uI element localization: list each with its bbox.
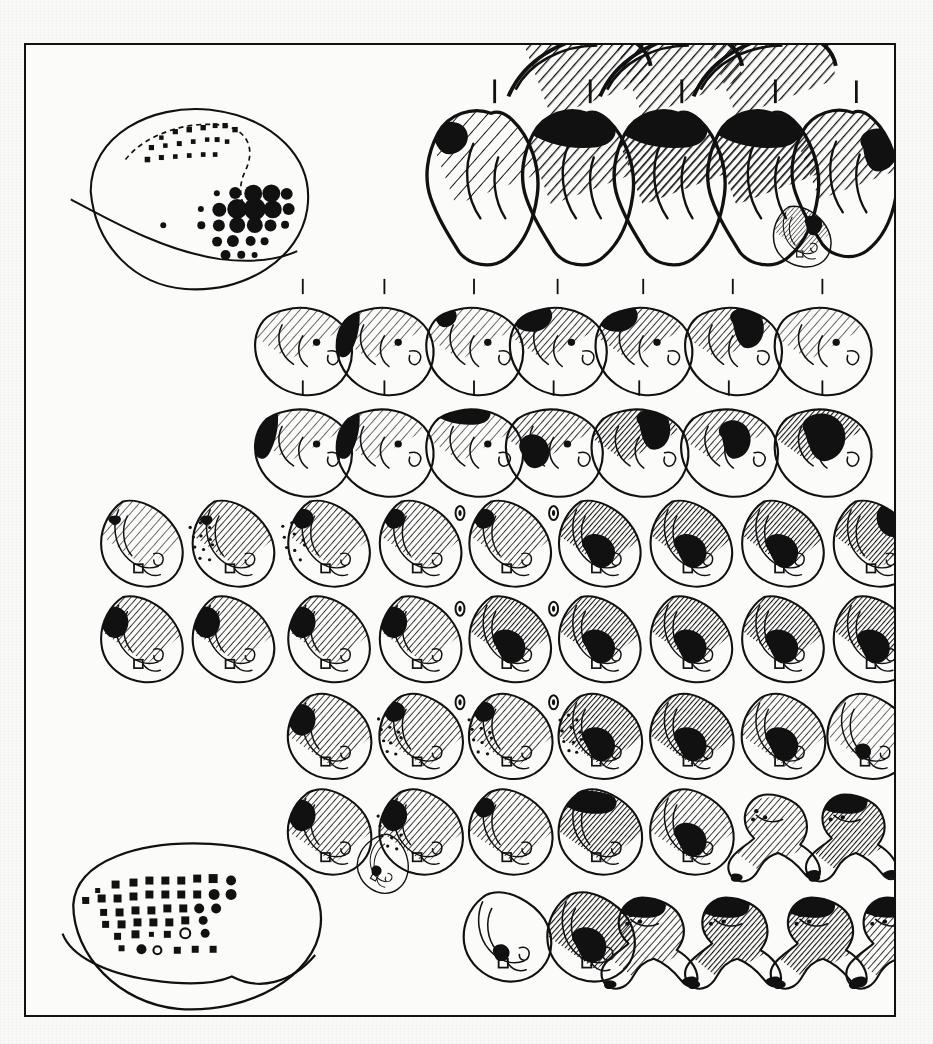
lesion-solid-core bbox=[772, 894, 835, 918]
inset-marker-square bbox=[177, 877, 185, 885]
stipple-dot bbox=[382, 739, 385, 742]
brain-section bbox=[817, 686, 894, 779]
stipple-dot bbox=[477, 750, 480, 753]
lateral-brain-schematic-upper bbox=[71, 109, 308, 289]
lesion-hatch-region bbox=[770, 294, 862, 360]
stipple-dot bbox=[486, 752, 489, 755]
inset-marker-square bbox=[191, 139, 196, 144]
inset-marker-circle bbox=[226, 889, 237, 900]
brain-section bbox=[421, 279, 523, 395]
inset-marker-circle bbox=[211, 903, 221, 913]
row-mid-hemisphere-b bbox=[92, 589, 894, 683]
detached-ovoid bbox=[549, 602, 558, 616]
inset-marker-dot bbox=[246, 236, 256, 246]
brain-section bbox=[590, 279, 692, 395]
brain-section bbox=[770, 279, 872, 395]
brain-section bbox=[733, 589, 832, 683]
detached-ovoid bbox=[549, 695, 558, 709]
brain-section bbox=[279, 589, 378, 683]
inset-marker-square bbox=[225, 139, 230, 144]
inset-marker-square bbox=[102, 921, 109, 928]
inset-marker-square bbox=[193, 891, 201, 899]
stipple-dot bbox=[189, 526, 192, 529]
inset-marker-square bbox=[213, 152, 218, 157]
brain-section bbox=[767, 201, 837, 267]
inset-marker-square bbox=[149, 145, 154, 150]
inset-marker-square bbox=[130, 893, 138, 901]
brain-section bbox=[461, 493, 560, 587]
row-anterior-cortex-a bbox=[250, 279, 872, 395]
inset-marker-circle bbox=[136, 944, 146, 954]
lateral-brain-schematic-lower bbox=[63, 843, 321, 1009]
inset-marker-square bbox=[149, 932, 154, 937]
inset-marker-square bbox=[174, 947, 181, 954]
inset-marker-square bbox=[173, 129, 178, 134]
inset-marker-dot bbox=[265, 219, 277, 231]
inset-marker-square bbox=[145, 877, 153, 885]
row-mid-hemisphere-a bbox=[92, 493, 894, 587]
brain-section bbox=[461, 589, 560, 683]
stipple-dot bbox=[299, 558, 302, 561]
inset-marker-square bbox=[222, 123, 227, 128]
inset-layer bbox=[63, 109, 321, 1009]
inset-marker-dot bbox=[283, 203, 295, 215]
inset-marker-dot bbox=[264, 200, 282, 218]
brain-section bbox=[550, 493, 649, 587]
brain-section bbox=[770, 380, 872, 496]
stipple-dot bbox=[567, 749, 570, 752]
inset-marker-square bbox=[181, 916, 189, 924]
inset-marker-open-circle bbox=[180, 928, 190, 938]
inset-marker-square bbox=[159, 155, 164, 160]
inset-marker-dot bbox=[229, 187, 241, 199]
brain-section bbox=[548, 782, 651, 875]
lesion-hatch-region bbox=[250, 294, 342, 360]
brain-section bbox=[586, 380, 688, 496]
inset-marker-square bbox=[147, 906, 155, 914]
inset-marker-square bbox=[161, 891, 169, 899]
inset-marker-square bbox=[145, 891, 153, 899]
inset-marker-square bbox=[192, 946, 199, 953]
inset-marker-square bbox=[201, 152, 206, 157]
stipple-dot bbox=[208, 558, 211, 561]
brain-section bbox=[458, 782, 561, 875]
brain-section bbox=[548, 686, 651, 779]
stipple-dot bbox=[562, 740, 565, 743]
brain-section bbox=[676, 380, 778, 496]
detached-ovoid bbox=[456, 506, 465, 520]
inset-marker-circle bbox=[226, 876, 236, 886]
brain-section bbox=[801, 791, 894, 882]
brain-section bbox=[464, 892, 552, 981]
brain-section bbox=[642, 493, 741, 587]
stipple-dot bbox=[377, 815, 380, 818]
detached-ovoid bbox=[456, 695, 465, 709]
inset-marker-square bbox=[215, 137, 220, 142]
inset-marker-square bbox=[193, 875, 201, 883]
inset-marker-square bbox=[112, 881, 120, 889]
stipple-dot bbox=[386, 844, 389, 847]
inset-marker-square bbox=[213, 123, 218, 128]
brain-section bbox=[184, 589, 283, 683]
inset-marker-dot bbox=[261, 237, 269, 245]
inset-marker-circle bbox=[209, 889, 220, 900]
inset-marker-dot bbox=[213, 220, 225, 232]
brain-section bbox=[505, 279, 607, 395]
inset-marker-square bbox=[114, 933, 121, 940]
inset-marker-dot bbox=[197, 221, 205, 229]
stipple-dot bbox=[468, 718, 471, 721]
inset-marker-square bbox=[209, 874, 218, 883]
inset-marker-square bbox=[232, 127, 237, 132]
lesion-hatch-region bbox=[421, 396, 513, 462]
inset-marker-dot bbox=[160, 222, 166, 228]
inset-marker-square bbox=[164, 931, 171, 938]
inset-marker-dot bbox=[212, 203, 226, 217]
inset-marker-dot bbox=[252, 252, 258, 258]
brain-section bbox=[825, 589, 894, 683]
stipple-dot bbox=[386, 750, 389, 753]
inset-marker-square bbox=[210, 946, 217, 953]
brain-section bbox=[640, 686, 743, 779]
stipple-dot bbox=[202, 548, 205, 551]
brain-section bbox=[642, 589, 741, 683]
inset-marker-dot bbox=[262, 184, 280, 202]
stipple-dot bbox=[281, 525, 284, 528]
detached-ovoid bbox=[549, 506, 558, 520]
